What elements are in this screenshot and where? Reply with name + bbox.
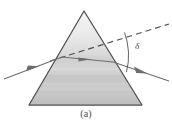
figure-container: δ (a) <box>0 0 172 128</box>
incident-ray-arrowhead <box>26 66 40 72</box>
deviation-angle-label: δ <box>135 41 140 51</box>
prism-triangle <box>29 11 142 105</box>
emergent-ray-arrowhead <box>134 67 148 74</box>
figure-caption: (a) <box>0 108 172 119</box>
